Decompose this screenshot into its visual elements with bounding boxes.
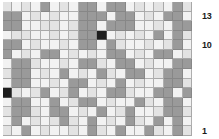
heatmap-cell [97,79,106,89]
heatmap-cell [173,69,182,79]
heatmap-cell [154,31,163,41]
heatmap-cell [116,59,125,69]
heatmap-cell [183,31,192,41]
heatmap-cell [183,88,192,98]
heatmap-cell [116,126,125,136]
heatmap-cell [88,2,97,12]
heatmap-cell [154,12,163,22]
heatmap-cell [173,40,182,50]
heatmap-cell [50,88,59,98]
heatmap-cell [12,50,21,60]
heatmap-cell [97,40,106,50]
heatmap-cell [173,21,182,31]
heatmap-cell [60,88,69,98]
heatmap-cell [3,79,12,89]
heatmap-cell [41,2,50,12]
heatmap-cell [31,2,40,12]
heatmap-cell [145,31,154,41]
heatmap-cell [41,79,50,89]
heatmap-cell [135,40,144,50]
heatmap-cell [79,40,88,50]
heatmap-cell [22,31,31,41]
heatmap-cell [145,98,154,108]
heatmap-cell [135,98,144,108]
heatmap-cell [145,79,154,89]
heatmap-cell [50,12,59,22]
heatmap-cell [79,12,88,22]
heatmap-cell [22,59,31,69]
heatmap-cell [50,79,59,89]
heatmap-cell [126,126,135,136]
heatmap-cell [60,12,69,22]
heatmap-cell [183,79,192,89]
heatmap-cell [154,69,163,79]
heatmap-cell [107,79,116,89]
heatmap-cell [154,126,163,136]
heatmap-cell [97,12,106,22]
heatmap-cell [41,98,50,108]
heatmap-cell [50,21,59,31]
heatmap-cell [31,107,40,117]
heatmap-cell [69,21,78,31]
heatmap-cell [3,31,12,41]
heatmap-cell [3,12,12,22]
heatmap-cell [97,2,106,12]
heatmap-cell [145,12,154,22]
heatmap-cell [79,21,88,31]
heatmap-cell [183,126,192,136]
heatmap-cell [31,117,40,127]
heatmap-cell [22,98,31,108]
heatmap-cell [173,117,182,127]
heatmap-cell [12,40,21,50]
heatmap-cell [3,59,12,69]
heatmap-cell [12,88,21,98]
heatmap-cell [50,40,59,50]
heatmap-cell [164,12,173,22]
heatmap-cell [126,107,135,117]
heatmap-cell [135,107,144,117]
heatmap-figure: 13101 [0,0,219,139]
heatmap-cell [41,126,50,136]
heatmap-cell [173,2,182,12]
heatmap-cell [50,50,59,60]
heatmap-cell [183,107,192,117]
heatmap-cell [12,2,21,12]
heatmap-cell [31,126,40,136]
heatmap-cell [60,98,69,108]
heatmap-cell [41,50,50,60]
heatmap-cell [41,40,50,50]
heatmap-cell [164,126,173,136]
heatmap-cell [116,88,125,98]
heatmap-cell [60,117,69,127]
heatmap-cell [88,126,97,136]
heatmap-cell [173,59,182,69]
heatmap-cell [41,117,50,127]
heatmap-cell [60,59,69,69]
heatmap-cell [31,12,40,22]
heatmap-cell [183,40,192,50]
heatmap-cell [107,12,116,22]
heatmap-cell [116,79,125,89]
heatmap-cell [116,31,125,41]
heatmap-cell [126,21,135,31]
heatmap-cell [145,69,154,79]
heatmap-cell [154,2,163,12]
heatmap-cell [183,21,192,31]
heatmap-cell [88,50,97,60]
heatmap-cell [183,12,192,22]
heatmap-cell [31,69,40,79]
heatmap-cell [69,117,78,127]
heatmap-cell [135,79,144,89]
heatmap-cell [79,107,88,117]
heatmap-cell [154,88,163,98]
heatmap-cell [60,40,69,50]
heatmap-cell [145,126,154,136]
heatmap-cell [88,117,97,127]
heatmap-cell [60,126,69,136]
heatmap-cell [164,79,173,89]
heatmap-cell [135,69,144,79]
heatmap-cell [116,21,125,31]
heatmap-cell [126,40,135,50]
heatmap-cell [107,117,116,127]
heatmap-cell [97,59,106,69]
